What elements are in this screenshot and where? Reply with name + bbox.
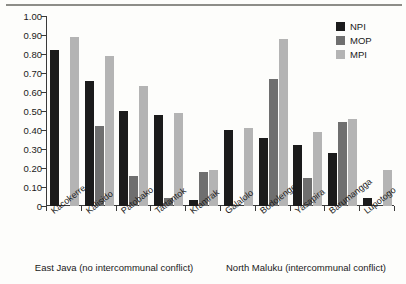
bar-npi	[119, 111, 128, 206]
chart-figure: 1.000.900.800.700.600.500.400.300.200.10…	[0, 0, 406, 284]
top-rule	[6, 4, 402, 6]
bar-npi	[85, 81, 94, 206]
y-axis-tick-label: 0.40	[0, 125, 42, 136]
bar-npi	[154, 115, 163, 206]
y-axis-tick-label: 0.80	[0, 49, 42, 60]
bar-group	[150, 16, 185, 206]
bar-group	[116, 16, 151, 206]
y-axis-tick-label: 0.50	[0, 106, 42, 117]
legend-swatch-icon	[336, 22, 345, 31]
bar-group	[290, 16, 325, 206]
bar-mpi	[279, 39, 288, 206]
legend-label: MOP	[350, 36, 372, 46]
bar-group	[46, 16, 81, 206]
bar-group	[255, 16, 290, 206]
group-caption-north-maluku: North Maluku (intercommunal conflict)	[208, 262, 404, 273]
bar-npi	[50, 50, 59, 206]
group-caption-east-java: East Java (no intercommunal conflict)	[16, 262, 212, 273]
x-axis-tick	[394, 206, 395, 211]
legend-label: MPI	[350, 50, 367, 60]
bar-npi	[259, 138, 268, 206]
legend-item-npi: NPI	[336, 20, 404, 33]
y-axis-tick-label: 0.30	[0, 144, 42, 155]
legend-item-mop: MOP	[336, 34, 404, 47]
bar-group	[220, 16, 255, 206]
bar-npi	[328, 153, 337, 206]
x-axis-category-labels: KacokerreKalisidoPatobakoTattantokKramra…	[46, 206, 394, 254]
legend-item-mpi: MPI	[336, 48, 404, 61]
chart-legend: NPIMOPMPI	[336, 20, 404, 62]
bar-group	[81, 16, 116, 206]
bar-group	[185, 16, 220, 206]
bar-mop	[269, 79, 278, 206]
y-axis-tick-label: 1.00	[0, 11, 42, 22]
y-axis-tick-label: 0	[0, 201, 42, 212]
bar-npi	[224, 130, 233, 206]
y-axis-tick-label: 0.60	[0, 87, 42, 98]
y-axis-tick-label: 0.90	[0, 30, 42, 41]
y-axis-tick-label: 0.10	[0, 182, 42, 193]
bar-mpi	[105, 56, 114, 206]
y-axis-labels: 1.000.900.800.700.600.500.400.300.200.10…	[0, 16, 42, 206]
legend-swatch-icon	[336, 36, 345, 45]
y-axis-tick-label: 0.70	[0, 68, 42, 79]
y-axis-tick-label: 0.20	[0, 163, 42, 174]
bar-mpi	[70, 37, 79, 206]
bar-npi	[293, 145, 302, 206]
legend-swatch-icon	[336, 50, 345, 59]
legend-label: NPI	[350, 22, 366, 32]
